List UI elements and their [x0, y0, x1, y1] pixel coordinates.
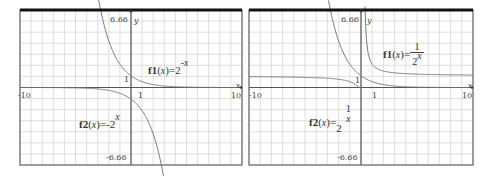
x-min-tick-label: -10 — [249, 92, 262, 100]
graph-panel-left: -10 10 1 6.66 -6.66 1 y x f1(x)=2-x f2(x… — [20, 10, 242, 165]
x-max-tick-label: 10 — [462, 92, 472, 100]
y-axis-label: y — [134, 17, 139, 25]
x-min-tick-label: -10 — [18, 92, 31, 100]
f2-legend-label: f2(x)=-2x — [79, 114, 120, 131]
y-axis-label: y — [367, 17, 372, 25]
y-axis-arrow — [130, 10, 133, 13]
y-max-tick-label: 6.66 — [110, 16, 128, 24]
x-max-tick-label: 10 — [231, 92, 241, 100]
x-one-tick-label: 1 — [372, 92, 377, 100]
x-axis-label: x — [236, 82, 241, 90]
y-max-tick-label: 6.66 — [341, 16, 359, 24]
x-axis-label: x — [468, 82, 473, 90]
y-min-tick-label: -6.66 — [337, 154, 358, 162]
y-one-tick-label: 1 — [124, 76, 129, 84]
graph-canvas-right — [249, 10, 473, 165]
graph-panel-right: -10 10 1 6.66 -6.66 1 y x f1(x)=12x f2(x… — [249, 10, 473, 165]
f1-legend-label: f1(x)=2-x — [148, 60, 188, 77]
y-min-tick-label: -6.66 — [106, 154, 127, 162]
y-one-tick-label: 1 — [355, 77, 360, 85]
f2-legend-label: f2(x)=21x — [309, 112, 353, 132]
f1-legend-label: f1(x)=12x — [383, 42, 424, 67]
x-one-tick-label: 1 — [138, 92, 143, 100]
y-axis-arrow — [360, 10, 363, 13]
graph-canvas-left — [20, 10, 242, 165]
